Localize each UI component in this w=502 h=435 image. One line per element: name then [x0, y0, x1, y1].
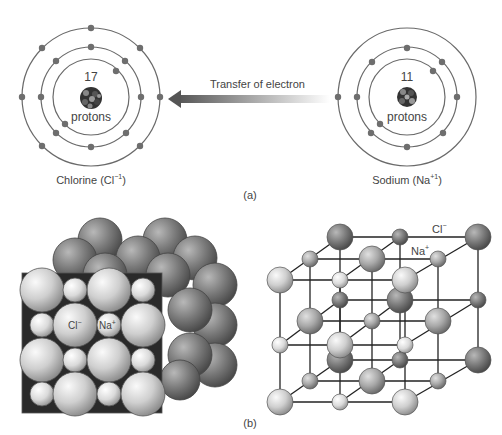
packing-cl-charge: −	[77, 319, 81, 326]
front-layer-ions	[20, 268, 165, 416]
caption-b: (b)	[243, 417, 256, 429]
lattice-cl-text: Cl	[432, 223, 442, 235]
sodium-name: Sodium (Na	[372, 174, 430, 186]
chlorine-name: Chlorine (Cl	[56, 174, 114, 186]
lattice-ions	[267, 224, 491, 415]
chlorine-protons-label: protons	[71, 110, 111, 124]
sodium-close: )	[438, 174, 442, 186]
chlorine-atom	[19, 25, 163, 166]
lattice-cl-charge: −	[442, 222, 446, 229]
packing-na-charge: +	[112, 319, 116, 326]
sodium-name-label: Sodium (Na+1)	[372, 173, 442, 186]
chlorine-close: )	[122, 174, 126, 186]
packing-cl-label: Cl−	[68, 319, 82, 331]
nacl-packing-model	[20, 218, 237, 416]
chlorine-charge: −1	[114, 173, 122, 180]
sodium-atom	[335, 28, 476, 166]
caption-a: (a)	[243, 189, 256, 201]
lattice-na-charge: +	[425, 244, 429, 251]
transfer-label: Transfer of electron	[210, 78, 305, 90]
packing-na-text: Na	[99, 320, 112, 331]
chlorine-nucleus-icon	[80, 87, 102, 109]
nacl-lattice-model	[267, 224, 491, 415]
sodium-charge: +1	[430, 173, 438, 180]
lattice-cl-label: Cl−	[432, 222, 446, 235]
chlorine-name-label: Chlorine (Cl−1)	[56, 173, 126, 186]
sodium-proton-count: 11	[401, 70, 413, 84]
chlorine-proton-count: 17	[84, 70, 97, 84]
sodium-protons-label: protons	[387, 110, 427, 124]
sodium-nucleus-icon	[397, 87, 417, 107]
electron-transfer-arrow	[168, 90, 330, 108]
diagram-canvas	[0, 0, 502, 435]
packing-na-label: Na+	[99, 319, 116, 331]
lattice-na-label: Na+	[411, 244, 429, 257]
lattice-na-text: Na	[411, 245, 425, 257]
